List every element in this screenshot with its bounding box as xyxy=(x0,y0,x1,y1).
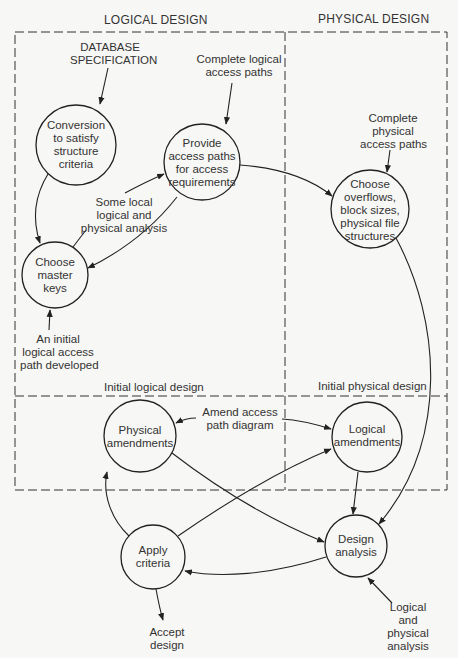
region-label-logical-design: LOGICAL DESIGN xyxy=(104,14,208,27)
annotation-some-local-analysis: Some local logical and physical analysis xyxy=(74,196,174,235)
arrow-provide-to-overflows xyxy=(240,165,332,196)
arrow-analysis-to-provide xyxy=(125,174,164,193)
node-provide-access-paths-label: Provide access paths for access requirem… xyxy=(160,137,244,189)
node-logical-amendments-label: Logical amendments xyxy=(330,423,404,449)
annotation-complete-physical-access-paths: Complete physical access paths xyxy=(360,112,426,151)
arrow-conversion-to-master-keys xyxy=(36,174,48,243)
arrow-apply-criteria-to-logical-amendments xyxy=(178,449,331,536)
arrow-apply-criteria-to-accept xyxy=(156,589,163,620)
arrow-amend-to-physical-amendments xyxy=(176,418,196,423)
region-label-physical-design: PHYSICAL DESIGN xyxy=(318,13,429,26)
arrow-physical-amendments-to-design-analysis xyxy=(172,453,324,542)
region-label-initial-physical-design: Initial physical design xyxy=(318,380,427,393)
arrow-initial-path-to-master-keys xyxy=(49,310,50,330)
node-conversion-label: Conversion to satisfy structure criteria xyxy=(42,119,110,171)
node-choose-master-keys-label: Choose master keys xyxy=(27,256,83,295)
arrow-dbspec-to-conversion xyxy=(100,68,108,104)
annotation-complete-logical-access-paths: Complete logical access paths xyxy=(196,53,282,79)
arrow-design-analysis-to-apply-criteria xyxy=(185,557,326,574)
arrow-complete-physical-to-overflows xyxy=(387,150,390,172)
annotation-database-specification: DATABASE SPECIFICATION xyxy=(70,41,150,67)
annotation-amend-access-path-diagram: Amend access path diagram xyxy=(198,406,282,432)
annotation-initial-logical-access-path: An initial logical access path developed xyxy=(20,333,96,372)
arrow-complete-logical-to-provide xyxy=(226,83,232,124)
arrow-amend-to-logical-amendments xyxy=(282,419,331,429)
annotation-accept-design: Accept design xyxy=(145,626,189,652)
arrow-analysis-to-design-analysis xyxy=(368,578,392,603)
annotation-logical-and-physical-analysis: Logical and physical analysis xyxy=(382,601,434,653)
arrow-logical-amendments-to-design-analysis xyxy=(353,472,358,514)
node-choose-overflows-label: Choose overflows, block sizes, physical … xyxy=(330,178,410,243)
flow-diagram-canvas xyxy=(0,0,458,658)
region-label-initial-logical-design: Initial logical design xyxy=(104,381,204,394)
arrow-apply-criteria-to-physical-amendments xyxy=(106,472,129,536)
node-apply-criteria-label: Apply criteria xyxy=(128,544,178,570)
node-physical-amendments-label: Physical amendments xyxy=(102,424,178,450)
node-design-analysis-label: Design analysis xyxy=(326,533,386,559)
